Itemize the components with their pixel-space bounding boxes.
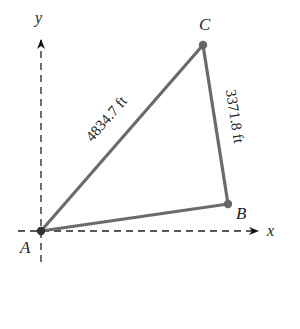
y-axis-label: y — [33, 9, 43, 27]
vertex-C-label: C — [199, 15, 211, 34]
side-AC — [41, 45, 203, 231]
vertex-A-label: A — [19, 238, 31, 257]
x-axis-label: x — [266, 222, 274, 239]
side-AB — [41, 204, 228, 231]
vertex-A — [37, 227, 45, 235]
triangle-diagram: x y A B C 4834.7 ft 3371.8 ft — [0, 0, 300, 329]
vertex-B — [224, 200, 232, 208]
vertex-C — [199, 41, 207, 49]
side-BC-length: 3371.8 ft — [223, 88, 247, 145]
side-CB — [203, 45, 228, 204]
vertex-B-label: B — [236, 204, 247, 223]
